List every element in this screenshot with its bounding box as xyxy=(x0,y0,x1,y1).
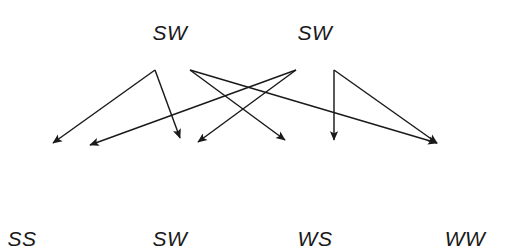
edge-arrow xyxy=(198,70,296,142)
bottom-node-label: SW xyxy=(153,228,188,249)
edge-group xyxy=(53,70,437,145)
bottom-node-label: SS xyxy=(7,228,36,249)
edge-arrow xyxy=(334,70,437,143)
top-node-label: SW xyxy=(153,22,188,43)
edge-arrow xyxy=(90,70,296,145)
diagram-canvas: SWSWSSSWWSWW xyxy=(0,0,510,251)
bottom-node-label: WS xyxy=(298,228,333,249)
edge-arrow xyxy=(190,70,437,143)
edge-arrow xyxy=(190,70,285,140)
edge-arrow xyxy=(53,70,155,143)
edge-layer xyxy=(0,0,510,251)
edge-arrow xyxy=(155,70,180,138)
top-node-label: SW xyxy=(298,22,333,43)
bottom-node-label: WW xyxy=(445,228,486,249)
